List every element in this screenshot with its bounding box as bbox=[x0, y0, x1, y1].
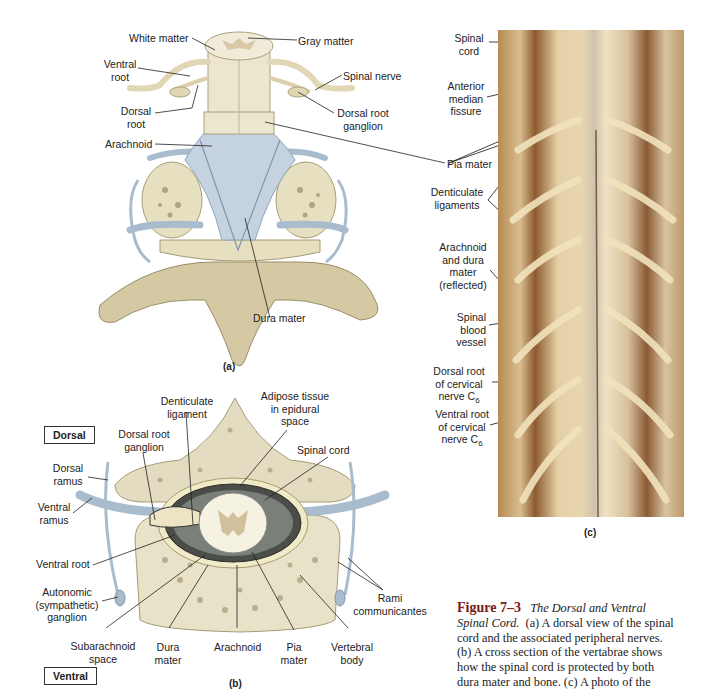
photo-detail bbox=[498, 30, 684, 517]
caption-line-1: (a) A dorsal view of the spinal bbox=[526, 616, 674, 630]
label-b-dorsal-root-ganglion: Dorsal root ganglion bbox=[114, 428, 174, 453]
label-c-anterior-median-fissure: Anterior median fissure bbox=[445, 80, 487, 118]
dissection-photo bbox=[498, 30, 684, 517]
label-b-autonomic-ganglion: Autonomic (sympathetic) ganglion bbox=[34, 586, 100, 624]
figure-number: Figure 7–3 bbox=[457, 600, 521, 615]
panel-a-illustration bbox=[99, 32, 378, 366]
orientation-dorsal: Dorsal bbox=[44, 426, 95, 444]
label-a-dorsal-root: Dorsal root bbox=[116, 105, 156, 130]
label-a-ventral-root: Ventral root bbox=[100, 58, 140, 83]
label-pia-mater-shared: Pia mater bbox=[447, 158, 492, 171]
label-b-adipose-tissue: Adipose tissue in epidural space bbox=[255, 390, 335, 428]
label-a-arachnoid: Arachnoid bbox=[105, 138, 152, 151]
label-b-ventral-ramus: Ventral ramus bbox=[36, 501, 72, 526]
label-b-rami-communicantes: Rami communicantes bbox=[350, 592, 430, 617]
label-c-spinal-cord: Spinal cord bbox=[449, 32, 489, 57]
label-b-denticulate-ligament: Denticulate ligament bbox=[157, 395, 217, 420]
label-b-vertebral-body: Vertebral body bbox=[327, 641, 377, 666]
caption-line-5: dura mater and bone. (c) A photo of the bbox=[457, 675, 713, 690]
label-a-dura-mater: Dura mater bbox=[253, 312, 306, 325]
label-a-dorsal-root-ganglion: Dorsal root ganglion bbox=[333, 107, 393, 132]
orientation-ventral: Ventral bbox=[44, 667, 97, 685]
label-c-ventral-root-c6: Ventral root of cervical nerve C6 bbox=[430, 408, 494, 451]
label-a-spinal-nerve: Spinal nerve bbox=[343, 70, 401, 83]
label-c-dorsal-root-c6: Dorsal root of cervical nerve C6 bbox=[428, 365, 490, 408]
label-b-ventral-root: Ventral root bbox=[36, 558, 90, 571]
label-c-spinal-blood-vessel: Spinal blood vessel bbox=[446, 311, 486, 349]
caption-line-4: how the spinal cord is protected by both bbox=[457, 660, 713, 675]
label-a-gray-matter: Gray matter bbox=[298, 35, 353, 48]
caption-line-2: cord and the associated peripheral nerve… bbox=[457, 631, 713, 646]
label-b-pia-mater: Pia mater bbox=[279, 641, 309, 666]
label-b-dura-mater: Dura mater bbox=[153, 641, 183, 666]
label-b-arachnoid: Arachnoid bbox=[214, 641, 261, 654]
caption-line-3: (b) A cross section of the vertabrae sho… bbox=[457, 645, 713, 660]
panel-a-tag: (a) bbox=[223, 361, 235, 372]
figure-caption: Figure 7–3 The Dorsal and Ventral Spinal… bbox=[457, 601, 713, 690]
panel-c-tag: (c) bbox=[584, 527, 596, 538]
panel-b-tag: (b) bbox=[229, 678, 242, 689]
label-c-denticulate-ligaments: Denticulate ligaments bbox=[425, 186, 489, 211]
label-b-dorsal-ramus: Dorsal ramus bbox=[50, 462, 86, 487]
figure-title-part1: The Dorsal and Ventral bbox=[530, 601, 646, 615]
label-b-subarachnoid-space: Subarachnoid space bbox=[68, 640, 138, 665]
figure-title-part2: Spinal Cord. bbox=[457, 616, 519, 630]
label-b-spinal-cord: Spinal cord bbox=[297, 444, 350, 457]
label-c-arachnoid-dura-mater: Arachnoid and dura mater (reflected) bbox=[436, 241, 490, 291]
label-a-white-matter: White matter bbox=[129, 32, 189, 45]
